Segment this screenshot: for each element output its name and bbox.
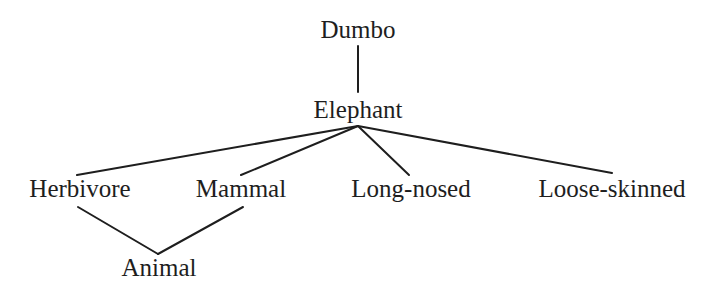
node-mammal: Mammal [196, 175, 286, 202]
edge-elephant-mammal [241, 126, 358, 175]
concept-tree-diagram: Dumbo Elephant Herbivore Mammal Long-nos… [0, 0, 718, 289]
node-dumbo: Dumbo [321, 16, 396, 43]
node-animal: Animal [122, 254, 197, 281]
diagram-canvas: Dumbo Elephant Herbivore Mammal Long-nos… [0, 0, 718, 289]
edge-herbivore-animal [78, 207, 158, 254]
node-herbivore: Herbivore [29, 175, 130, 202]
node-elephant: Elephant [314, 96, 403, 123]
node-long-nosed: Long-nosed [351, 175, 471, 202]
edge-elephant-loose-skinned [358, 126, 612, 173]
edge-mammal-animal [158, 207, 243, 254]
node-loose-skinned: Loose-skinned [538, 175, 686, 202]
edge-elephant-herbivore [77, 126, 358, 175]
